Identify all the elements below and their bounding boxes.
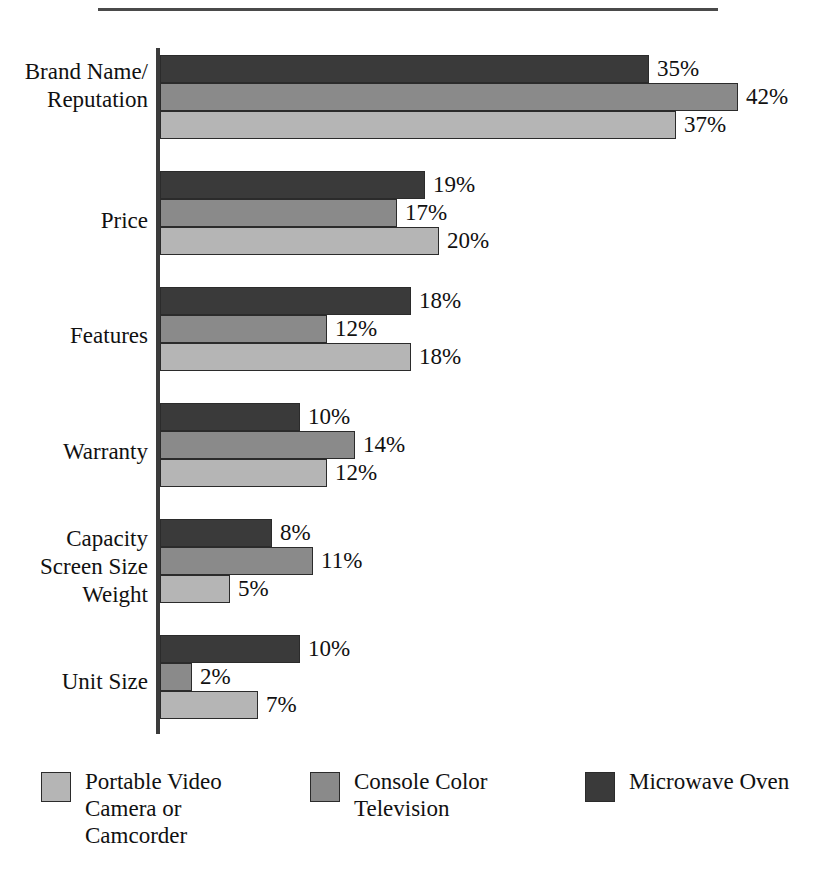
category-label-line: Unit Size bbox=[62, 669, 148, 694]
category-label-price: Price bbox=[101, 207, 148, 235]
category-label-line: Features bbox=[70, 323, 148, 348]
bar-value-warranty-microwave: 10% bbox=[308, 403, 350, 431]
bar-price-television bbox=[160, 199, 397, 227]
bar-value-features-television: 12% bbox=[335, 315, 377, 343]
legend-swatch-television bbox=[310, 772, 340, 802]
bar-value-screensize-television: 11% bbox=[321, 547, 362, 575]
bar-brand-television bbox=[160, 83, 738, 111]
legend-label-microwave: Microwave Oven bbox=[629, 768, 789, 795]
bar-value-features-camcorder: 18% bbox=[419, 343, 461, 371]
bar-screensize-television bbox=[160, 547, 313, 575]
category-label-line: Weight bbox=[82, 582, 148, 607]
category-label-unit-size: Unit Size bbox=[62, 668, 148, 696]
title-underline-left bbox=[98, 8, 418, 11]
bar-value-brand-microwave: 35% bbox=[657, 55, 699, 83]
legend-label-camcorder: Portable VideoCamera orCamcorder bbox=[85, 768, 222, 849]
category-label-line: Capacity bbox=[66, 526, 148, 551]
bar-value-capacity-microwave: 8% bbox=[280, 519, 311, 547]
bar-brand-microwave bbox=[160, 55, 649, 83]
bar-value-warranty-television: 14% bbox=[363, 431, 405, 459]
bar-unitsize-television bbox=[160, 663, 192, 691]
bar-unitsize-camcorder bbox=[160, 691, 258, 719]
bar-value-unitsize-television: 2% bbox=[200, 663, 231, 691]
category-label-line: Brand Name/ bbox=[25, 59, 148, 84]
category-label-line: Price bbox=[101, 208, 148, 233]
bar-value-price-microwave: 19% bbox=[433, 171, 475, 199]
y-axis-line bbox=[156, 48, 160, 734]
bar-warranty-television bbox=[160, 431, 355, 459]
bar-features-camcorder bbox=[160, 343, 411, 371]
title-underline-right bbox=[418, 8, 718, 11]
bar-price-microwave bbox=[160, 171, 425, 199]
category-label-line: Warranty bbox=[63, 439, 148, 464]
category-label-brand-name: Brand Name/Reputation bbox=[25, 58, 148, 114]
legend-swatch-microwave bbox=[585, 772, 615, 802]
bar-warranty-camcorder bbox=[160, 459, 327, 487]
category-label-warranty: Warranty bbox=[63, 438, 148, 466]
bar-value-unitsize-microwave: 10% bbox=[308, 635, 350, 663]
bar-value-brand-camcorder: 37% bbox=[684, 111, 726, 139]
plot-area: Brand Name/Reputation Price Features War… bbox=[0, 40, 824, 730]
chart-legend: Portable VideoCamera orCamcorder Console… bbox=[0, 768, 824, 868]
bar-brand-camcorder bbox=[160, 111, 676, 139]
legend-swatch-camcorder bbox=[41, 772, 71, 802]
bar-price-camcorder bbox=[160, 227, 439, 255]
legend-label-line: Camcorder bbox=[85, 823, 187, 848]
bar-value-warranty-camcorder: 12% bbox=[335, 459, 377, 487]
bar-features-microwave bbox=[160, 287, 411, 315]
bar-weight-camcorder bbox=[160, 575, 230, 603]
category-label-capacity: CapacityScreen SizeWeight bbox=[40, 525, 148, 609]
bar-value-brand-television: 42% bbox=[746, 83, 788, 111]
legend-label-line: Portable Video bbox=[85, 769, 222, 794]
category-label-features: Features bbox=[70, 322, 148, 350]
bar-value-price-television: 17% bbox=[405, 199, 447, 227]
bar-value-unitsize-camcorder: 7% bbox=[266, 691, 297, 719]
bar-capacity-microwave bbox=[160, 519, 272, 547]
category-label-line: Screen Size bbox=[40, 554, 148, 579]
bar-warranty-microwave bbox=[160, 403, 300, 431]
bar-unitsize-microwave bbox=[160, 635, 300, 663]
legend-label-line: Television bbox=[354, 796, 449, 821]
bar-features-television bbox=[160, 315, 327, 343]
bar-value-price-camcorder: 20% bbox=[447, 227, 489, 255]
legend-label-line: Console Color bbox=[354, 769, 488, 794]
legend-label-line: Microwave Oven bbox=[629, 769, 789, 794]
legend-label-television: Console ColorTelevision bbox=[354, 768, 488, 822]
legend-label-line: Camera or bbox=[85, 796, 181, 821]
bar-value-features-microwave: 18% bbox=[419, 287, 461, 315]
category-label-line: Reputation bbox=[47, 87, 148, 112]
bar-value-weight-camcorder: 5% bbox=[238, 575, 269, 603]
bar-chart: Brand Name/Reputation Price Features War… bbox=[0, 0, 824, 870]
